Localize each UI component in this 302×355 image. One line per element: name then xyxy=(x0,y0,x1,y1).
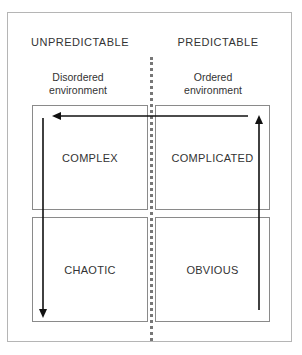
left-arrow-icon xyxy=(52,112,248,120)
flow-arrows xyxy=(0,0,302,355)
up-arrow-icon xyxy=(255,115,263,310)
down-arrow-icon xyxy=(39,118,47,318)
